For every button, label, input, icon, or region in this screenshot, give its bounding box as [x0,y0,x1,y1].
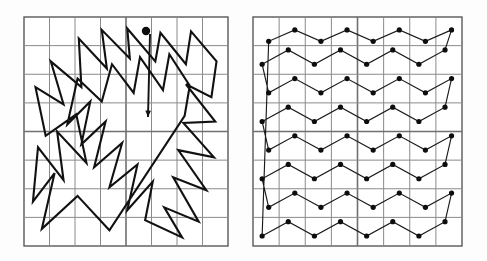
right-panel-node-dot [390,162,395,167]
right-panel-node-dot [344,133,349,138]
figure-canvas [0,0,487,261]
right-panel-node-dot [344,76,349,81]
right-panel-node-dot [260,233,265,238]
right-panel-node-dot [286,162,291,167]
right-panel-node-dot [312,233,317,238]
right-panel-node-dot [442,105,447,110]
start-point-dot [142,27,150,35]
right-panel-node-dot [338,219,343,224]
right-panel-node-dot [416,62,421,67]
right-panel-node-dot [292,27,297,32]
right-panel-node-dot [364,62,369,67]
right-panel-node-dot [260,62,265,67]
right-panel-node-dot [266,205,271,210]
right-panel-node-dot [318,90,323,95]
right-panel-node-dot [442,219,447,224]
right-panel-node-dot [312,62,317,67]
right-panel-node-dot [397,27,402,32]
right-panel-node-dot [338,47,343,52]
right-panel-node-dot [397,133,402,138]
right-panel-node-dot [397,190,402,195]
right-panel-node-dot [286,219,291,224]
right-panel-node-dot [312,119,317,124]
right-panel-node-dot [364,119,369,124]
right-panel-node-dot [318,148,323,153]
right-panel-node-dot [390,47,395,52]
right-panel-node-dot [423,205,428,210]
figure-root [0,0,487,261]
right-panel-node-dot [318,39,323,44]
right-panel-node-dot [364,233,369,238]
right-panel-node-dot [397,76,402,81]
right-panel-node-dot [442,162,447,167]
right-panel-node-dot [260,176,265,181]
right-panel-node-dot [338,105,343,110]
right-panel-node-dot [286,47,291,52]
left-panel [24,17,228,246]
right-panel-node-dot [371,205,376,210]
right-panel-node-dot [292,76,297,81]
right-panel-node-dot [266,39,271,44]
right-panel-node-dot [449,27,454,32]
right-panel-node-dot [286,105,291,110]
right-panel-node-dot [371,148,376,153]
right-panel-node-dot [318,205,323,210]
right-panel-node-dot [449,190,454,195]
right-panel-node-dot [423,39,428,44]
right-panel-node-dot [449,133,454,138]
right-panel-node-dot [344,190,349,195]
right-panel-node-dot [423,90,428,95]
right-panel-node-dot [312,176,317,181]
right-panel-node-dot [338,162,343,167]
right-panel-node-dot [266,148,271,153]
right-panel-node-dot [364,176,369,181]
right-panel-node-dot [266,90,271,95]
right-panel-node-dot [390,219,395,224]
right-panel-node-dot [416,233,421,238]
right-panel-node-dot [442,47,447,52]
right-panel-node-dot [390,105,395,110]
right-panel-node-dot [416,176,421,181]
right-panel-node-dot [371,39,376,44]
right-panel-node-dot [292,190,297,195]
right-panel-node-dot [423,148,428,153]
right-panel-node-dot [416,119,421,124]
right-panel [253,17,462,246]
right-panel-node-dot [260,119,265,124]
right-panel-node-dot [344,27,349,32]
right-panel-node-dot [292,133,297,138]
right-panel-node-dot [371,90,376,95]
right-panel-node-dot [449,76,454,81]
